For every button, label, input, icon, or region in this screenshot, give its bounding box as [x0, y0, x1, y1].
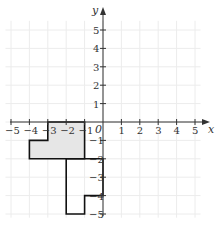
y-tick-label: 2 — [93, 80, 99, 91]
coordinate-grid: x y 0 −5−4−3−2−11234554321−1−2−3−4−5 — [0, 0, 217, 225]
x-tick-label: −4 — [23, 125, 38, 136]
y-axis-arrow-icon — [100, 7, 106, 15]
x-tick-label: −1 — [79, 125, 94, 136]
x-tick-label: 5 — [192, 125, 198, 136]
x-tick-label: −5 — [5, 125, 20, 136]
axes: x y 0 — [10, 4, 215, 216]
y-tick-label: −5 — [89, 209, 104, 220]
y-tick-label: 1 — [93, 99, 99, 110]
y-axis-label: y — [91, 4, 99, 17]
origin-label: 0 — [95, 123, 102, 136]
y-tick-label: −1 — [89, 135, 104, 146]
y-tick-label: 5 — [93, 25, 99, 36]
y-tick-label: −4 — [89, 191, 104, 202]
x-tick-label: −2 — [60, 125, 75, 136]
y-tick-label: 4 — [93, 43, 99, 54]
y-tick-label: −2 — [89, 154, 104, 165]
x-tick-label: 4 — [174, 125, 180, 136]
x-axis-label: x — [208, 123, 215, 136]
x-tick-label: 3 — [155, 125, 161, 136]
x-tick-label: −3 — [42, 125, 57, 136]
y-tick-label: −3 — [89, 172, 104, 183]
x-tick-label: 2 — [137, 125, 143, 136]
x-tick-label: 1 — [118, 125, 124, 136]
y-tick-label: 3 — [93, 62, 99, 73]
